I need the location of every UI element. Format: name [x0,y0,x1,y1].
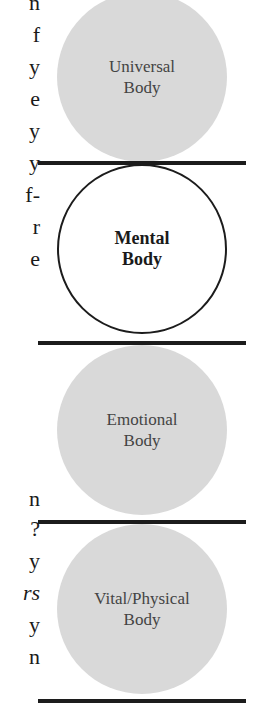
divider-line [38,699,246,703]
label-line: Emotional [107,409,178,430]
emotional-body-label: Emotional Body [107,409,178,451]
label-line: Vital/Physical [94,588,189,609]
label-line: Body [107,430,178,451]
label-line: Body [94,609,189,630]
label-line: Universal [109,56,175,77]
mental-body-label: Mental Body [115,228,170,270]
bodies-diagram: Universal Body Mental Body Emotional Bod… [0,0,255,708]
mental-body-circle: Mental Body [57,164,227,334]
emotional-body-circle: Emotional Body [57,345,227,515]
vital-physical-body-label: Vital/Physical Body [94,588,189,630]
label-line: Body [109,77,175,98]
label-line: Body [115,249,170,270]
universal-body-circle: Universal Body [57,0,227,162]
label-line: Mental [115,228,170,249]
vital-physical-body-circle: Vital/Physical Body [57,524,227,694]
universal-body-label: Universal Body [109,56,175,98]
